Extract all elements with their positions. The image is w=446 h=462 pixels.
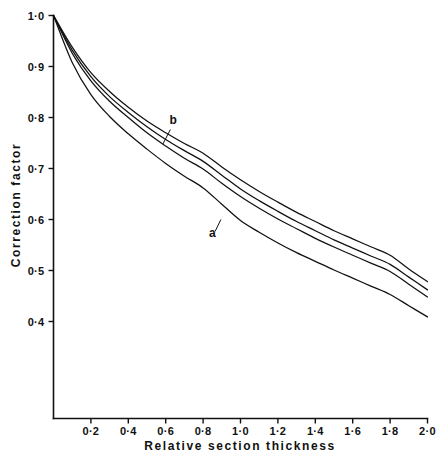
x-axis-title: Relative section thickness [144,439,336,453]
x-tick-label: 0·6 [157,425,174,437]
x-tick-label: 1·4 [307,425,324,437]
y-tick-label: 0·5 [28,265,45,277]
x-tick-label: 2·0 [419,425,436,437]
y-tick-label: 0·8 [28,112,45,124]
x-tick-label: 0·2 [82,425,99,437]
y-tick-label: 0·4 [28,316,45,328]
curve-a [54,16,428,317]
y-tick-label: 0·7 [28,163,45,175]
leader-line-a [215,220,221,232]
y-axis-tick-labels: 1·00·90·80·70·60·50·4 [28,10,45,328]
x-tick-label: 0·8 [195,425,212,437]
chart-figure: 1·00·90·80·70·60·50·4 0·20·40·60·81·01·2… [0,0,446,462]
curve-c [54,16,428,290]
y-tick-label: 0·6 [28,214,45,226]
curve-label-a: a [209,226,216,240]
curve-d [54,16,428,282]
x-tick-label: 0·4 [120,425,137,437]
x-tick-label: 1·0 [232,425,249,437]
curve-label-b: b [170,113,177,127]
y-tick-label: 1·0 [28,10,45,22]
curve-b [54,16,428,298]
x-tick-label: 1·6 [344,425,361,437]
chart-canvas: 1·00·90·80·70·60·50·4 0·20·40·60·81·01·2… [0,0,446,462]
x-tick-label: 1·8 [382,425,399,437]
x-tick-label: 1·2 [269,425,286,437]
chart-curves [54,16,428,317]
y-axis-title: Correction factor [9,143,23,268]
y-tick-label: 0·9 [28,61,45,73]
x-axis-tick-labels: 0·20·40·60·81·01·21·41·61·82·0 [82,425,435,437]
